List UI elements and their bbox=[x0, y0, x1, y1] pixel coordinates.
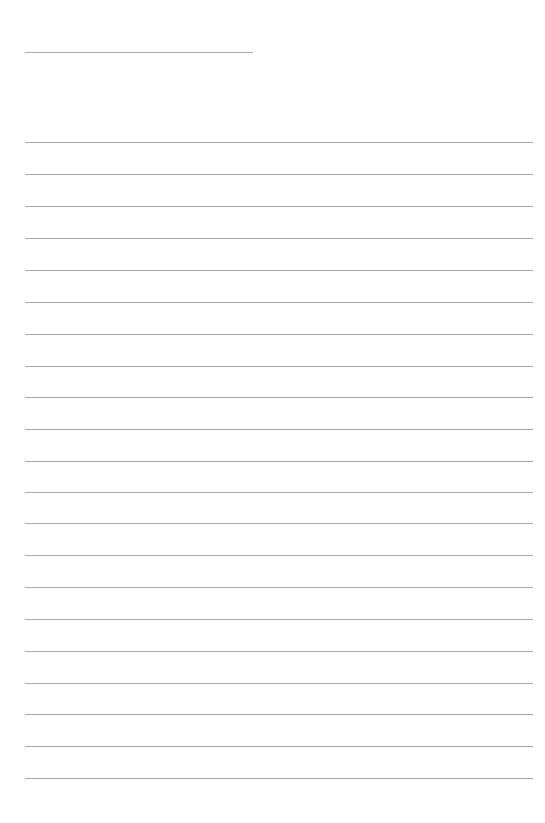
ruled-line[interactable] bbox=[25, 523, 533, 524]
ruled-line[interactable] bbox=[25, 555, 533, 556]
ruled-line[interactable] bbox=[25, 683, 533, 684]
ruled-line[interactable] bbox=[25, 142, 533, 143]
ruled-line[interactable] bbox=[25, 587, 533, 588]
ruled-line[interactable] bbox=[25, 334, 533, 335]
footer-zone bbox=[0, 779, 545, 823]
ruled-line[interactable] bbox=[25, 206, 533, 207]
ruled-line[interactable] bbox=[25, 746, 533, 747]
ruled-line[interactable] bbox=[25, 270, 533, 271]
ruled-lines-area bbox=[0, 0, 545, 823]
ruled-line[interactable] bbox=[25, 174, 533, 175]
ruled-line[interactable] bbox=[25, 397, 533, 398]
ruled-line[interactable] bbox=[25, 429, 533, 430]
ruled-line[interactable] bbox=[25, 238, 533, 239]
ruled-line[interactable] bbox=[25, 461, 533, 462]
ruled-line[interactable] bbox=[25, 492, 533, 493]
ruled-line[interactable] bbox=[25, 619, 533, 620]
ruled-line[interactable] bbox=[25, 302, 533, 303]
ruled-line[interactable] bbox=[25, 366, 533, 367]
lined-note-page bbox=[0, 0, 545, 823]
ruled-line[interactable] bbox=[25, 651, 533, 652]
ruled-line[interactable] bbox=[25, 714, 533, 715]
